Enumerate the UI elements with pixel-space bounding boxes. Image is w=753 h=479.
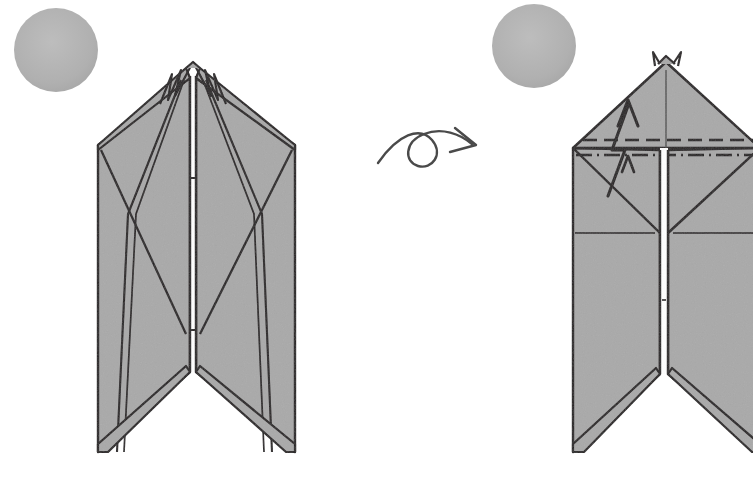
- diagram-svg: [0, 0, 753, 479]
- turn-over-arrow-icon: [378, 128, 476, 167]
- apex-peak: [658, 56, 675, 64]
- turn-over-arrowhead: [450, 128, 476, 152]
- origami-figure-step-33: [573, 52, 753, 452]
- apex-peak: [186, 62, 200, 68]
- diagram-canvas: 32 33: [0, 0, 753, 479]
- step-badge-disc-32: [14, 8, 98, 92]
- top-triangle-panel: [573, 62, 753, 148]
- origami-figure-step-32: [98, 62, 295, 452]
- step-badge-disc-33: [492, 4, 576, 88]
